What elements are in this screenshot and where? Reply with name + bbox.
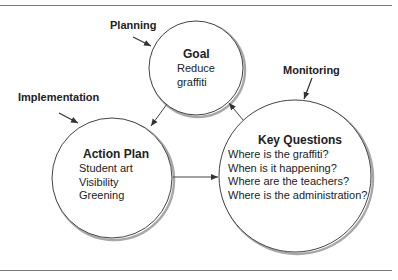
goal-node: Goal Reduce graffiti — [177, 47, 215, 89]
monitoring-label: Monitoring — [283, 64, 340, 77]
goal-line: Reduce — [177, 62, 215, 76]
key-question-item: When is it happening? — [228, 162, 367, 176]
key-question-item: Where is the administration? — [228, 189, 367, 203]
key-questions-node: Key Questions Where is the graffiti? Whe… — [228, 133, 367, 202]
action-plan-title: Action Plan — [83, 147, 149, 162]
implementation-pointer-arrow — [59, 113, 78, 123]
planning-pointer-arrow — [133, 37, 151, 46]
action-plan-item: Visibility — [79, 176, 149, 190]
goal-line: graffiti — [177, 76, 215, 90]
action-plan-item: Student art — [79, 162, 149, 176]
key-questions-to-goal-arrow — [229, 103, 243, 120]
goal-title: Goal — [183, 47, 215, 62]
action-plan-node: Action Plan Student art Visibility Green… — [79, 147, 149, 203]
key-question-item: Where are the teachers? — [228, 175, 367, 189]
implementation-label: Implementation — [18, 91, 99, 104]
key-question-item: Where is the graffiti? — [228, 148, 367, 162]
monitoring-pointer-arrow — [304, 78, 312, 99]
goal-to-action-plan-arrow — [151, 104, 167, 126]
action-plan-item: Greening — [79, 189, 149, 203]
key-questions-title: Key Questions — [258, 133, 367, 148]
planning-label: Planning — [110, 19, 156, 32]
